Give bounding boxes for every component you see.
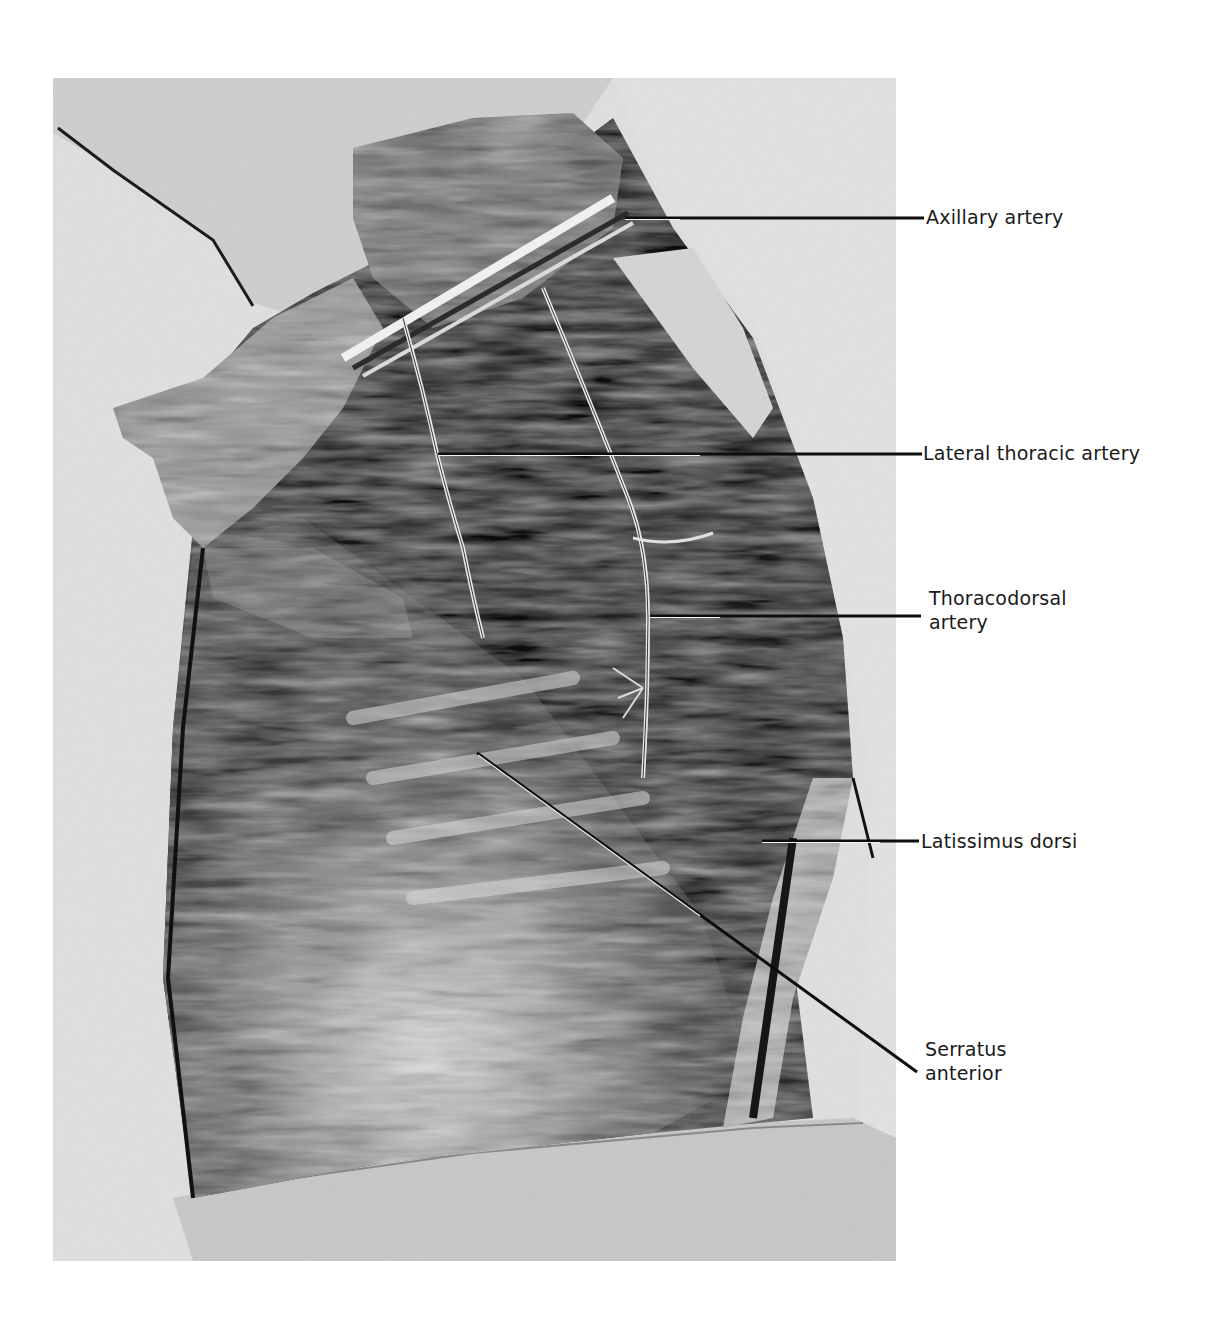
label-text-line1: Thoracodorsal — [929, 586, 1067, 610]
label-latissimus-dorsi: Latissimus dorsi — [921, 829, 1077, 853]
label-text: Axillary artery — [926, 206, 1063, 228]
label-text: Lateral thoracic artery — [923, 442, 1140, 464]
dissection-photograph — [53, 78, 896, 1261]
label-text-line2: anterior — [925, 1061, 1007, 1085]
label-text: Latissimus dorsi — [921, 830, 1077, 852]
anatomy-figure: Axillary artery Lateral thoracic artery … — [0, 0, 1224, 1328]
label-axillary-artery: Axillary artery — [926, 205, 1063, 229]
label-text-line1: Serratus — [925, 1037, 1007, 1061]
label-thoracodorsal-artery: Thoracodorsal artery — [929, 586, 1067, 634]
label-lateral-thoracic-artery: Lateral thoracic artery — [923, 441, 1140, 465]
label-serratus-anterior: Serratus anterior — [925, 1037, 1007, 1085]
label-text-line2: artery — [929, 610, 1067, 634]
